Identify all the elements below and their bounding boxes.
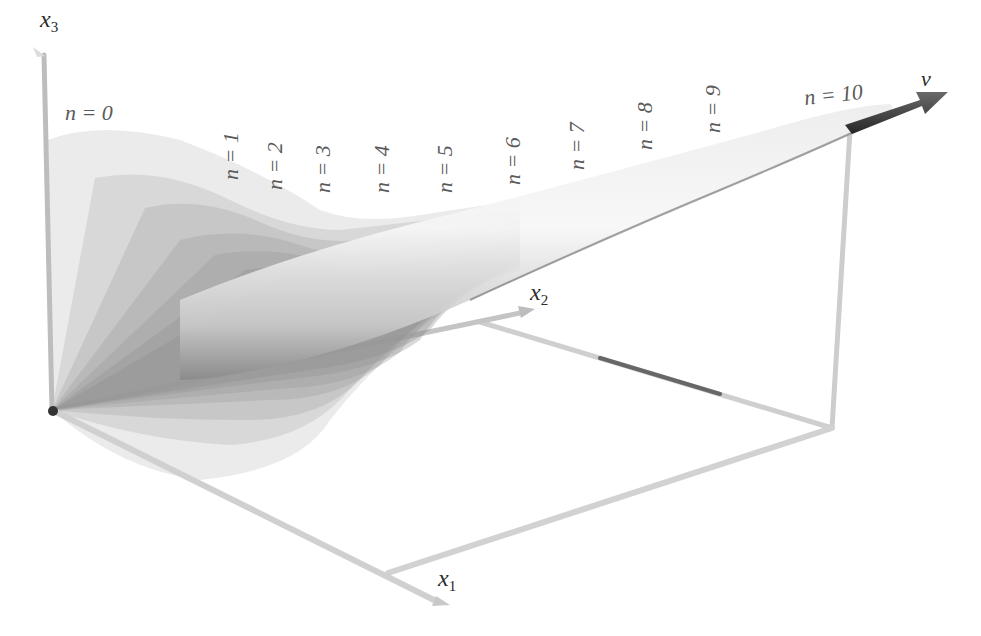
cone-sequence-diagram: x3 x2 x1 v n = 0 n = 1 n = 2 n = 3 n = 4… [0, 0, 981, 636]
cone-label-n6: n = 6 [500, 137, 525, 185]
cone-label-n0: n = 0 [65, 100, 113, 125]
box-back-edge-shadow [600, 358, 720, 394]
x3-label: x3 [39, 6, 58, 35]
cone-label-n8: n = 8 [632, 102, 657, 150]
cone-label-n3: n = 3 [310, 145, 335, 193]
cone-label-n4: n = 4 [369, 145, 394, 193]
v-label: v [921, 66, 931, 91]
x3-axis [33, 47, 52, 410]
cone-label-n9: n = 9 [700, 85, 725, 133]
cone-label-n7: n = 7 [564, 121, 589, 170]
x1-label: x1 [437, 565, 456, 594]
origin-point [48, 406, 58, 416]
cone-label-n1: n = 1 [218, 132, 243, 180]
cone-label-n5: n = 5 [432, 145, 457, 193]
x2-label: x2 [529, 279, 548, 308]
x2-arrowhead-icon [518, 306, 535, 318]
box-vertical-edge [832, 130, 850, 428]
x3-arrowhead-icon [33, 47, 45, 57]
box-bottom-edge [388, 428, 832, 573]
cone-label-n2: n = 2 [262, 142, 287, 190]
cone-label-n10: n = 10 [803, 79, 864, 110]
